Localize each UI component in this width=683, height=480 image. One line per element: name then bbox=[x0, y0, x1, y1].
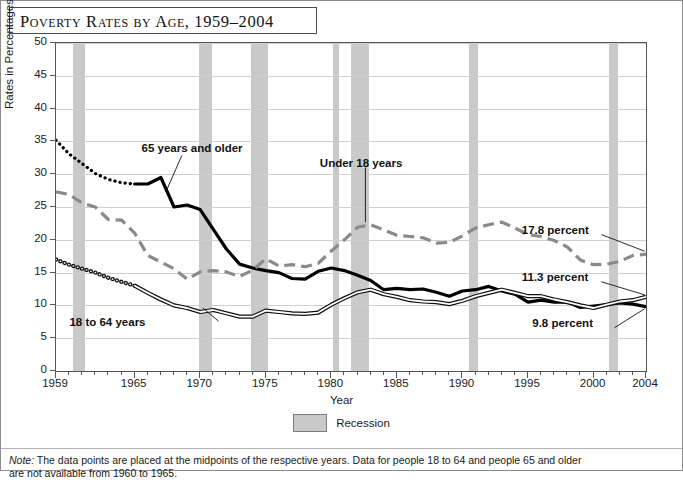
x-tick-mark bbox=[501, 372, 502, 375]
x-tick-mark bbox=[160, 372, 161, 375]
leader-end-adults bbox=[601, 282, 644, 295]
y-tick-mark bbox=[50, 206, 55, 207]
leader-end-under18 bbox=[601, 235, 644, 252]
y-tick-mark bbox=[50, 239, 55, 240]
x-tick-label: 1959 bbox=[30, 377, 80, 389]
x-tick-mark bbox=[579, 372, 580, 375]
x-tick-mark bbox=[357, 372, 358, 375]
x-tick-mark bbox=[94, 372, 95, 375]
x-tick-mark bbox=[173, 372, 174, 375]
x-tick-label: 1975 bbox=[240, 377, 290, 389]
label-under-18: Under 18 years bbox=[320, 157, 402, 169]
x-tick-mark bbox=[147, 372, 148, 375]
y-tick-label: 50 bbox=[13, 35, 47, 47]
y-tick-label: 15 bbox=[13, 265, 47, 277]
x-tick-mark bbox=[606, 372, 607, 375]
y-tick-label: 5 bbox=[13, 330, 47, 342]
x-tick-mark bbox=[304, 372, 305, 375]
x-tick-mark bbox=[566, 372, 567, 375]
x-tick-mark bbox=[186, 372, 187, 375]
legend: Recession bbox=[1, 414, 682, 432]
x-tick-label: 1985 bbox=[371, 377, 421, 389]
y-tick-mark bbox=[50, 75, 55, 76]
title-box: Poverty Rates by Age, 1959–2004 bbox=[9, 7, 317, 34]
y-tick-mark bbox=[50, 42, 55, 43]
x-tick-label: 1965 bbox=[109, 377, 159, 389]
note-prefix: Note: bbox=[9, 454, 34, 466]
label-end-18-to-64: 11.3 percent bbox=[522, 271, 588, 283]
x-tick-mark bbox=[317, 372, 318, 375]
x-tick-mark bbox=[278, 372, 279, 375]
x-tick-mark bbox=[68, 372, 69, 375]
series-65-years-and-older bbox=[135, 178, 646, 308]
x-tick-mark bbox=[540, 372, 541, 375]
y-tick-label: 10 bbox=[13, 297, 47, 309]
page-title: Poverty Rates by Age, 1959–2004 bbox=[20, 12, 274, 32]
x-tick-mark bbox=[291, 372, 292, 375]
y-tick-mark bbox=[50, 304, 55, 305]
x-tick-mark bbox=[212, 372, 213, 375]
label-18-to-64: 18 to 64 years bbox=[69, 316, 145, 328]
x-tick-mark bbox=[343, 372, 344, 375]
series-65-years-and-older-interpolated bbox=[56, 140, 135, 184]
leader-over65 bbox=[166, 155, 182, 191]
y-tick-mark bbox=[50, 337, 55, 338]
x-tick-mark bbox=[252, 372, 253, 375]
x-tick-label: 1990 bbox=[436, 377, 486, 389]
x-tick-mark bbox=[383, 372, 384, 375]
note-text-line2: are not available from 1960 to 1965. bbox=[9, 467, 177, 479]
y-tick-label: 40 bbox=[13, 101, 47, 113]
leader-end-over65 bbox=[615, 309, 645, 328]
x-tick-mark bbox=[475, 372, 476, 375]
y-tick-mark bbox=[50, 108, 55, 109]
note-separator bbox=[1, 448, 682, 449]
y-tick-label: 0 bbox=[13, 363, 47, 375]
x-tick-mark bbox=[553, 372, 554, 375]
y-tick-label: 30 bbox=[13, 166, 47, 178]
x-tick-mark bbox=[435, 372, 436, 375]
x-tick-mark bbox=[239, 372, 240, 375]
x-tick-mark bbox=[632, 372, 633, 375]
y-tick-label: 45 bbox=[13, 68, 47, 80]
x-tick-mark bbox=[107, 372, 108, 375]
x-tick-label: 2000 bbox=[568, 377, 618, 389]
x-tick-mark bbox=[422, 372, 423, 375]
x-tick-mark bbox=[81, 372, 82, 375]
y-tick-mark bbox=[50, 272, 55, 273]
legend-label-recession: Recession bbox=[336, 417, 390, 429]
x-tick-mark bbox=[409, 372, 410, 375]
x-tick-label: 1995 bbox=[502, 377, 552, 389]
x-axis-title: Year bbox=[1, 394, 682, 406]
x-tick-mark bbox=[619, 372, 620, 375]
x-tick-mark bbox=[121, 372, 122, 375]
label-end-under-18: 17.8 percent bbox=[522, 224, 589, 236]
x-tick-mark bbox=[448, 372, 449, 375]
note-text: The data points are placed at the midpoi… bbox=[34, 454, 581, 466]
y-tick-label: 25 bbox=[13, 199, 47, 211]
x-tick-label: 2004 bbox=[620, 377, 670, 389]
label-end-over-65: 9.8 percent bbox=[532, 317, 593, 329]
x-tick-mark bbox=[514, 372, 515, 375]
x-tick-mark bbox=[488, 372, 489, 375]
y-tick-mark bbox=[50, 140, 55, 141]
y-tick-mark bbox=[50, 173, 55, 174]
y-tick-label: 35 bbox=[13, 133, 47, 145]
figure-note: Note: The data points are placed at the … bbox=[9, 454, 674, 480]
x-tick-mark bbox=[225, 372, 226, 375]
recession-swatch bbox=[293, 414, 327, 432]
x-tick-label: 1980 bbox=[305, 377, 355, 389]
y-tick-mark bbox=[50, 370, 55, 371]
y-tick-label: 20 bbox=[13, 232, 47, 244]
x-tick-mark bbox=[370, 372, 371, 375]
label-over-65: 65 years and older bbox=[142, 142, 243, 154]
x-tick-label: 1970 bbox=[174, 377, 224, 389]
